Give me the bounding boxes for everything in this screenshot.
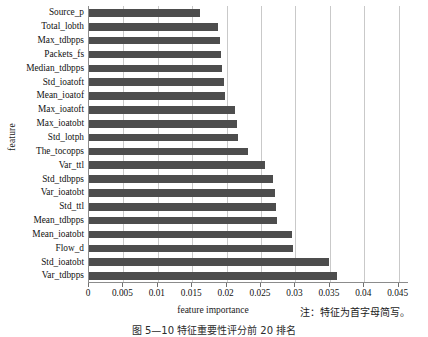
x-tick-mark — [122, 283, 123, 287]
y-tick-label: Var_tdbpps — [0, 270, 84, 280]
y-tick-label: Mean_ioatobt — [0, 229, 84, 239]
y-tick-label: Max_tdbpps — [0, 35, 84, 45]
bar-row[interactable] — [89, 103, 235, 116]
x-axis-ticks: 00.0050.010.0150.020.0250.030.0350.040.0… — [88, 283, 408, 301]
bar[interactable] — [89, 134, 238, 142]
x-tick-mark — [329, 283, 330, 287]
x-tick-label: 0.025 — [250, 288, 271, 298]
bar-row[interactable] — [89, 159, 265, 172]
bar-row[interactable] — [89, 62, 222, 75]
bar[interactable] — [89, 92, 225, 100]
x-tick-mark — [226, 283, 227, 287]
x-tick-mark — [88, 283, 89, 287]
bar[interactable] — [89, 161, 265, 169]
x-tick-label: 0.01 — [149, 288, 165, 298]
bar[interactable] — [89, 23, 218, 31]
x-tick-mark — [191, 283, 192, 287]
x-tick-label: 0.015 — [181, 288, 202, 298]
bar[interactable] — [89, 175, 273, 183]
figure-caption: 图 5—10 特征重要性评分前 20 排名 — [0, 322, 428, 337]
bar[interactable] — [89, 203, 276, 211]
bar-row[interactable] — [89, 131, 238, 144]
bar-row[interactable] — [89, 256, 329, 269]
bar[interactable] — [89, 37, 220, 45]
x-tick-mark — [260, 283, 261, 287]
bar[interactable] — [89, 106, 235, 114]
bar-row[interactable] — [89, 186, 275, 199]
y-axis-tick-labels: Source_pTotal_lobthMax_tdbppsPackets_fsM… — [0, 6, 84, 283]
bar[interactable] — [89, 148, 248, 156]
y-tick-label: Max_ioatobt — [0, 118, 84, 128]
x-tick-label: 0.005 — [112, 288, 133, 298]
bar[interactable] — [89, 120, 237, 128]
figure-note: 注：特征为首字母简写。 — [300, 304, 410, 319]
x-tick-mark — [157, 283, 158, 287]
y-tick-label: Var_ioatobt — [0, 187, 84, 197]
bar[interactable] — [89, 65, 222, 73]
y-tick-label: Source_p — [0, 7, 84, 17]
y-tick-label: Std_lotph — [0, 132, 84, 142]
x-tick-label: 0.035 — [318, 288, 339, 298]
bar-row[interactable] — [89, 76, 224, 89]
x-tick-label: 0.03 — [286, 288, 302, 298]
y-tick-label: Packets_fs — [0, 49, 84, 59]
bar-series — [89, 6, 408, 282]
bar[interactable] — [89, 51, 221, 59]
bar[interactable] — [89, 272, 337, 280]
y-tick-label: Var_ttl — [0, 160, 84, 170]
bar-row[interactable] — [89, 214, 277, 227]
x-tick-mark — [294, 283, 295, 287]
bar-row[interactable] — [89, 200, 276, 213]
bar-row[interactable] — [89, 117, 237, 130]
x-tick-label: 0 — [86, 288, 91, 298]
y-tick-label: Std_tdbpps — [0, 174, 84, 184]
bar-row[interactable] — [89, 242, 293, 255]
y-tick-label: Std_ttl — [0, 201, 84, 211]
bar-row[interactable] — [89, 269, 337, 282]
bar-row[interactable] — [89, 228, 292, 241]
y-tick-label: Flow_d — [0, 243, 84, 253]
bar[interactable] — [89, 9, 200, 17]
x-tick-label: 0.04 — [355, 288, 371, 298]
bar-row[interactable] — [89, 172, 273, 185]
x-tick-mark — [398, 283, 399, 287]
bar[interactable] — [89, 245, 293, 253]
bar-row[interactable] — [89, 145, 248, 158]
bar[interactable] — [89, 189, 275, 197]
bar-row[interactable] — [89, 48, 221, 61]
y-tick-label: The_tocopps — [0, 146, 84, 156]
bar[interactable] — [89, 231, 292, 239]
bar[interactable] — [89, 258, 329, 266]
y-tick-label: Median_tdbpps — [0, 63, 84, 73]
x-tick-label: 0.045 — [387, 288, 408, 298]
bar-row[interactable] — [89, 34, 220, 47]
y-tick-label: Mean_ioatof — [0, 90, 84, 100]
y-tick-label: Std_ioatoft — [0, 77, 84, 87]
bar[interactable] — [89, 78, 224, 86]
y-tick-label: Total_lobth — [0, 21, 84, 31]
bar-row[interactable] — [89, 6, 200, 19]
x-tick-mark — [363, 283, 364, 287]
x-tick-label: 0.02 — [217, 288, 233, 298]
bar[interactable] — [89, 217, 277, 225]
y-tick-label: Std_ioatobt — [0, 257, 84, 267]
bar-row[interactable] — [89, 89, 225, 102]
y-tick-label: Max_ioatoft — [0, 104, 84, 114]
bar-row[interactable] — [89, 20, 218, 33]
y-tick-label: Mean_tdbpps — [0, 215, 84, 225]
plot-area — [88, 6, 408, 283]
